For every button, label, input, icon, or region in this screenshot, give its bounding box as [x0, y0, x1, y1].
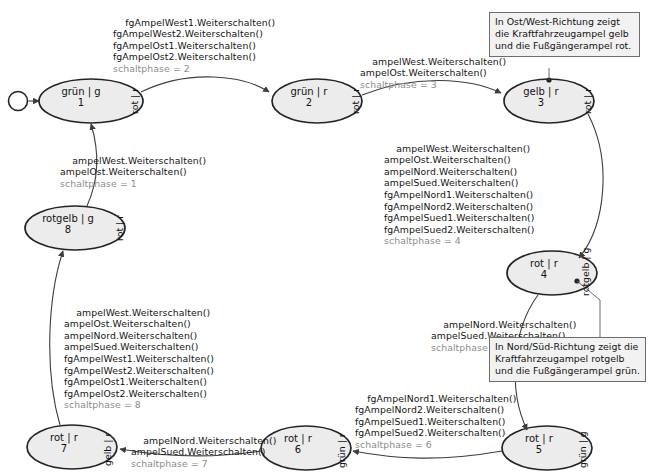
state-2-number: 2 [289, 97, 329, 108]
transition-5-to-6-actions: fgAmpelNord1.Weiterschalten() fgAmpelNor… [355, 393, 517, 439]
initial-pseudostate [9, 92, 28, 111]
state-machine-diagram: grün | g 1 rot | r grün | r 2 rot | r ge… [0, 0, 656, 474]
transition-label-5-to-6: fgAmpelNord1.Weiterschalten() fgAmpelNor… [355, 381, 517, 462]
state-4-number: 4 [524, 269, 564, 280]
transition-3-to-4-guard: schaltphase = 4 [384, 235, 461, 246]
state-3-side-label: rot | r [583, 88, 593, 114]
transition-1-to-2-actions: fgAmpelWest1.Weiterschalten() fgAmpelWes… [113, 17, 275, 63]
state-1-number: 1 [61, 97, 101, 108]
state-8-label: rotgelb | g [33, 213, 103, 224]
state-1-label: grün | g [51, 86, 111, 97]
transition-3-to-4-actions: ampelWest.Weiterschalten() ampelOst.Weit… [384, 143, 535, 235]
state-6-side-label: grün | r [337, 433, 347, 468]
transition-label-8-to-1: ampelWest.Weiterschalten() ampelOst.Weit… [60, 143, 206, 201]
state-8-number: 8 [48, 224, 88, 235]
state-6-label: rot | r [271, 433, 325, 444]
edge-3-to-4 [579, 114, 603, 258]
state-2-label: grün | r [281, 86, 337, 97]
transition-1-to-2-guard: schaltphase = 2 [113, 63, 190, 74]
transition-6-to-7-actions: ampelNord.Weiterschalten() ampelSued.Wei… [131, 435, 277, 458]
state-5-label: rot | r [512, 433, 566, 444]
state-5-side-label: grün | g [578, 431, 588, 468]
state-7-number: 7 [44, 443, 84, 454]
state-7-label: rot | r [37, 432, 91, 443]
transition-5-to-6-guard: schaltphase = 6 [355, 439, 432, 450]
state-3-number: 3 [521, 97, 561, 108]
transition-7-to-8-guard: schaltphase = 8 [64, 399, 141, 410]
transition-label-3-to-4: ampelWest.Weiterschalten() ampelOst.Weit… [384, 131, 535, 259]
transition-label-1-to-2: fgAmpelWest1.Weiterschalten() fgAmpelWes… [113, 5, 275, 86]
state-5-number: 5 [519, 444, 559, 455]
state-4-side-label: rotgelb | g [581, 248, 591, 296]
transition-8-to-1-guard: schaltphase = 1 [60, 178, 137, 189]
state-4-label: rot | r [517, 258, 571, 269]
transition-8-to-1-actions: ampelWest.Weiterschalten() ampelOst.Weit… [60, 155, 206, 178]
note-state-4: In Nord/Süd-Richtung zeigt die Kraftfahr… [489, 337, 646, 382]
state-6-number: 6 [278, 444, 318, 455]
state-3-label: gelb | r [513, 86, 569, 97]
transition-label-7-to-8: ampelWest.Weiterschalten() ampelOst.Weit… [64, 295, 214, 423]
transition-2-to-3-guard: schaltphase = 3 [360, 79, 437, 90]
transition-label-6-to-7: ampelNord.Weiterschalten() ampelSued.Wei… [131, 423, 277, 474]
state-1-side-label: rot | r [130, 88, 140, 114]
state-7-side-label: gelb | r [103, 433, 113, 466]
note-state-3: In Ost/West-Richtung zeigt die Kraftfahr… [489, 12, 640, 57]
transition-6-to-7-guard: schaltphase = 7 [131, 458, 208, 469]
edge-7-to-8 [50, 251, 63, 425]
transition-label-2-to-3: ampelWest.Weiterschalten() ampelOst.Weit… [360, 44, 506, 102]
state-8-side-label: rot | r [115, 215, 125, 241]
transition-7-to-8-actions: ampelWest.Weiterschalten() ampelOst.Weit… [64, 307, 214, 399]
transition-2-to-3-actions: ampelWest.Weiterschalten() ampelOst.Weit… [360, 56, 506, 79]
